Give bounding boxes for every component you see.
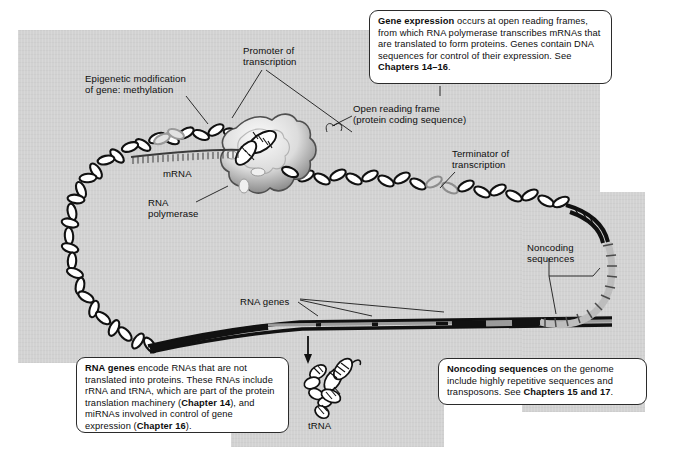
callout-gene-expression-lead: Gene expression bbox=[378, 16, 454, 26]
label-promoter: Promoter of transcription bbox=[243, 45, 297, 68]
callout-noncoding-lead: Noncoding sequences bbox=[447, 364, 548, 374]
callout-gene-expression-ref: Chapters 14–16 bbox=[378, 62, 448, 72]
callout-rna-genes-tail: ). bbox=[186, 421, 192, 431]
callout-rna-genes-ref: Chapter 14 bbox=[181, 398, 230, 408]
label-terminator: Terminator of transcription bbox=[452, 148, 509, 171]
callout-noncoding-ref: Chapters 15 and 17 bbox=[524, 387, 611, 397]
callout-noncoding-tail: . bbox=[610, 387, 613, 397]
callout-gene-expression-tail: . bbox=[448, 62, 451, 72]
callout-noncoding-sequences: Noncoding sequences on the genome includ… bbox=[438, 358, 647, 405]
label-rna-genes: RNA genes bbox=[240, 296, 289, 307]
label-trna: tRNA bbox=[308, 420, 331, 431]
callout-rna-genes-lead: RNA genes bbox=[85, 363, 135, 373]
callout-gene-expression: Gene expression occurs at open reading f… bbox=[369, 10, 612, 84]
figure-canvas: Epigenetic modification of gene: methyla… bbox=[0, 0, 681, 471]
label-noncoding-sequences: Noncoding sequences bbox=[527, 242, 574, 265]
label-open-reading-frame: Open reading frame (protein coding seque… bbox=[353, 103, 466, 126]
callout-rna-genes: RNA genes encode RNAs that are not trans… bbox=[76, 357, 289, 433]
callout-rna-genes-ref2: Chapter 16 bbox=[137, 421, 186, 431]
label-rna-polymerase: RNA polymerase bbox=[148, 197, 199, 220]
label-mrna: mRNA bbox=[163, 168, 192, 179]
label-epigenetic-modification: Epigenetic modification of gene: methyla… bbox=[85, 73, 186, 96]
